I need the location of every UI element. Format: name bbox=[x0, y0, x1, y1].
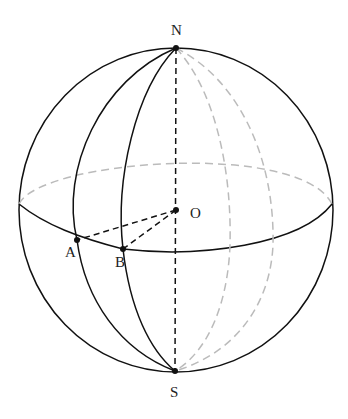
meridian-a bbox=[73, 48, 176, 371]
label-a: A bbox=[65, 244, 76, 260]
sphere-diagram: N S O A B bbox=[0, 0, 348, 419]
label-b: B bbox=[115, 254, 125, 270]
meridian-hidden-1 bbox=[175, 48, 230, 371]
meridian-b bbox=[121, 48, 176, 371]
point-a bbox=[74, 237, 80, 243]
label-o: O bbox=[190, 205, 201, 221]
point-n bbox=[173, 45, 179, 51]
point-b bbox=[120, 246, 126, 252]
label-n: N bbox=[171, 22, 182, 38]
label-s: S bbox=[170, 384, 178, 400]
radius-ob bbox=[123, 210, 176, 249]
radius-oa bbox=[77, 210, 176, 240]
point-o bbox=[173, 207, 179, 213]
point-s bbox=[172, 368, 178, 374]
